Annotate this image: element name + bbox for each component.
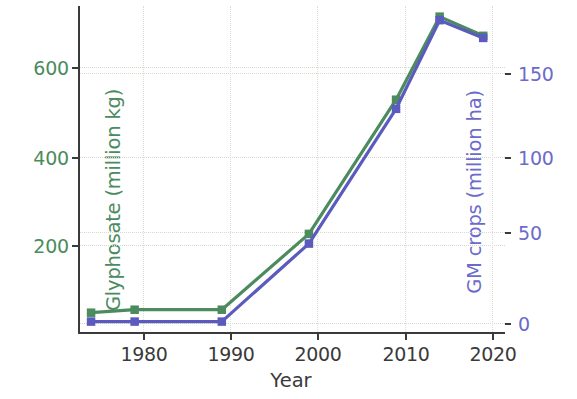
tick-right-0 [505, 323, 511, 325]
y-tick-label-left-200: 200 [33, 235, 69, 257]
series-gm-crops [87, 16, 488, 326]
tick-1990 [230, 334, 232, 340]
tick-right-100 [505, 157, 511, 159]
y-tick-label-left-400: 400 [33, 147, 69, 169]
series-glyphosate [87, 12, 488, 317]
tick-right-150 [505, 73, 511, 75]
data-point-marker [130, 305, 139, 314]
data-point-marker [305, 239, 314, 248]
data-point-marker [130, 317, 139, 326]
y-tick-label-right-150: 150 [518, 63, 554, 85]
x-tick-label-2000: 2000 [294, 343, 341, 365]
x-tick-label-1990: 1990 [207, 343, 254, 365]
data-point-marker [87, 308, 96, 317]
data-point-marker [479, 34, 488, 43]
tick-2010 [405, 334, 407, 340]
data-point-marker [218, 305, 227, 314]
chart-figure: Glyphosate (million kg) GM crops (millio… [0, 0, 577, 399]
data-point-marker [392, 105, 401, 114]
tick-2020 [492, 334, 494, 340]
y-tick-label-right-100: 100 [518, 147, 554, 169]
data-point-marker [435, 16, 444, 25]
x-tick-label-2010: 2010 [382, 343, 429, 365]
series-line [91, 20, 483, 321]
x-tick-label-1980: 1980 [120, 343, 167, 365]
tick-right-50 [505, 232, 511, 234]
y-tick-label-right-50: 50 [518, 222, 542, 244]
y-tick-label-right-0: 0 [518, 313, 530, 335]
data-series-layer [78, 6, 505, 334]
data-point-marker [87, 317, 96, 326]
tick-2000 [317, 334, 319, 340]
x-tick-label-2020: 2020 [469, 343, 516, 365]
plot-area: 200 400 600 0 50 100 150 1980 1990 2000 … [78, 6, 505, 334]
data-point-marker [218, 317, 227, 326]
x-axis-title: Year [270, 369, 311, 392]
y-tick-label-left-600: 600 [33, 57, 69, 79]
series-line [91, 17, 483, 313]
tick-1980 [143, 334, 145, 340]
